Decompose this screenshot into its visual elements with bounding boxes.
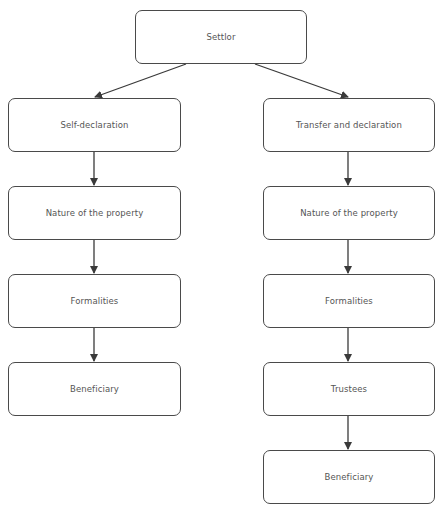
node-nature-of-property-left: Nature of the property [8,186,181,240]
node-label: Transfer and declaration [296,120,402,130]
arrow-settlor-to-self-declaration [95,64,186,97]
node-label: Beneficiary [70,384,119,394]
node-settlor: Settlor [135,10,307,64]
node-beneficiary-left: Beneficiary [8,362,181,416]
node-label: Nature of the property [46,208,144,218]
node-formalities-left: Formalities [8,274,181,328]
arrow-settlor-to-transfer [255,64,348,97]
node-self-declaration: Self-declaration [8,98,181,152]
node-formalities-right: Formalities [263,274,435,328]
node-trustees: Trustees [263,362,435,416]
flowchart-canvas: Settlor Self-declaration Nature of the p… [0,0,440,508]
node-label: Beneficiary [325,472,374,482]
node-label: Nature of the property [300,208,398,218]
node-transfer-and-declaration: Transfer and declaration [263,98,435,152]
node-label: Formalities [71,296,119,306]
node-beneficiary-right: Beneficiary [263,450,435,504]
node-label: Settlor [206,32,235,42]
node-label: Trustees [331,384,367,394]
node-label: Formalities [325,296,373,306]
connector-arrows [0,0,440,508]
node-label: Self-declaration [60,120,128,130]
node-nature-of-property-right: Nature of the property [263,186,435,240]
